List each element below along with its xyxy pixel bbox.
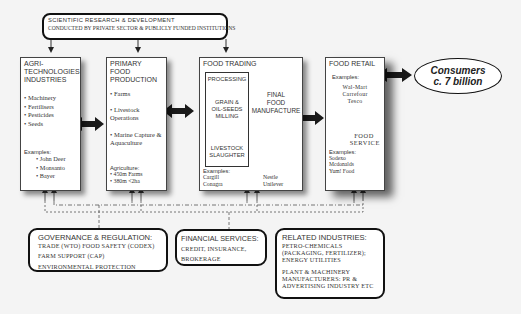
related-industries-box: RELATED INDUSTRIES: PETRO-CHEMICALS (PAC… [275, 228, 385, 299]
list-item: Carrefour [329, 91, 381, 98]
consumers-ellipse: Consumers c. 7 billion [414, 58, 502, 94]
financial-title: FINANCIAL SERVICES: [181, 234, 261, 243]
consumers-line-2: c. 7 billion [415, 76, 501, 87]
trading-title: FOOD TRADING [203, 60, 257, 68]
list-item: Bayer [36, 172, 77, 180]
livestock-slaughter-label: LIVESTOCK SLAUGHTER [206, 145, 248, 159]
list-item: 380m <2ha [110, 178, 163, 185]
governance-line-2: FARM SUPPORT (CAP) [38, 252, 158, 259]
related-line-3: ENERGY UTILITIES [282, 256, 378, 263]
list-item: Seeds [24, 120, 77, 129]
processing-subbox: PROCESSING GRAIN & OIL-SEEDS MILLING LIV… [205, 72, 249, 167]
list-item: Tesco [329, 98, 381, 105]
list-item: Fertilisers [24, 103, 77, 112]
governance-line-1: TRADE (WTO) FOOD SAFETY (CODEX) [38, 242, 158, 249]
primary-items: Farms Livestock Operations Marine Captur… [110, 90, 163, 147]
food-service-label: FOOD SERVICE [329, 132, 381, 147]
list-item: Pesticides [24, 111, 77, 120]
financial-services-box: FINANCIAL SERVICES: CREDIT, INSURANCE, B… [175, 229, 267, 266]
list-item: Nestle [263, 174, 283, 181]
food-retail-box: FOOD RETAIL Examples: Wal-Mart Carrefour… [325, 57, 385, 191]
processing-label: PROCESSING [206, 76, 248, 82]
governance-title: GOVERNANCE & REGULATION: [38, 233, 158, 242]
retail-title: FOOD RETAIL [329, 60, 381, 68]
governance-line-3: ENVIRONMENTAL PROTECTION [38, 263, 158, 270]
retail-examples-label: Examples: [329, 74, 381, 80]
agri-examples: John Deer Monsanto Bayer [24, 155, 77, 180]
related-title: RELATED INDUSTRIES: [282, 233, 378, 242]
list-item: Conagra [203, 181, 223, 188]
list-item: Yum! Food [329, 168, 381, 175]
financial-line-1: CREDIT, INSURANCE, [181, 245, 261, 252]
grain-milling-label: GRAIN & OIL-SEEDS MILLING [206, 99, 248, 119]
list-item: Mcdonalds [329, 161, 381, 168]
trading-examples-right: Nestle Unilever [263, 174, 283, 188]
final-manufacture-label: FINAL FOOD MANUFACTURE [251, 91, 301, 115]
primary-agri-stats: 450m Farms 380m <2ha [110, 171, 163, 185]
list-item: John Deer [36, 155, 77, 163]
list-item: Monsanto [36, 164, 77, 172]
list-item: Sodexo [329, 155, 381, 162]
agri-items: Machinery Fertilisers Pesticides Seeds [24, 94, 77, 128]
research-banner: SCIENTIFIC RESEARCH & DEVELOPMENT CONDUC… [42, 13, 228, 40]
list-item: Machinery [24, 94, 77, 103]
trading-examples-left: Cargill Conagra [203, 174, 223, 188]
consumers-line-1: Consumers [415, 65, 501, 76]
related-line-4: PLANT & MACHINERY [282, 268, 378, 275]
research-line-1: SCIENTIFIC RESEARCH & DEVELOPMENT [48, 17, 222, 23]
financial-line-2: BROKERAGE [181, 255, 261, 262]
governance-box: GOVERNANCE & REGULATION: TRADE (WTO) FOO… [28, 228, 168, 272]
agri-technologies-box: AGRI- TECHNOLOGIES INDUSTRIES Machinery … [20, 57, 81, 191]
list-item: Farms [110, 90, 163, 98]
food-trading-box: FOOD TRADING PROCESSING GRAIN & OIL-SEED… [199, 57, 303, 191]
related-line-1: PETRO-CHEMICALS [282, 242, 378, 249]
list-item: Livestock Operations [110, 106, 163, 122]
related-line-5: MANUFACTURERS: PR & [282, 275, 378, 282]
retail-examples: Wal-Mart Carrefour Tesco [329, 84, 381, 106]
list-item: Marine Capture & Aquaculture [110, 131, 163, 147]
list-item: Cargill [203, 174, 223, 181]
research-line-2: CONDUCTED BY PRIVATE SECTOR & PUBLICLY F… [48, 25, 222, 31]
list-item: Unilever [263, 181, 283, 188]
primary-title: PRIMARY FOOD PRODUCTION [110, 60, 163, 84]
related-line-2: (PACKAGING, FERTILIZER); [282, 249, 378, 256]
list-item: Wal-Mart [329, 84, 381, 91]
primary-food-production-box: PRIMARY FOOD PRODUCTION Farms Livestock … [106, 57, 167, 191]
agri-title: AGRI- TECHNOLOGIES INDUSTRIES [24, 60, 77, 84]
service-examples: Sodexo Mcdonalds Yum! Food [329, 155, 381, 175]
list-item: 450m Farms [110, 171, 163, 178]
related-line-6: ADVERTISING INDUSTRY ETC [282, 282, 378, 289]
